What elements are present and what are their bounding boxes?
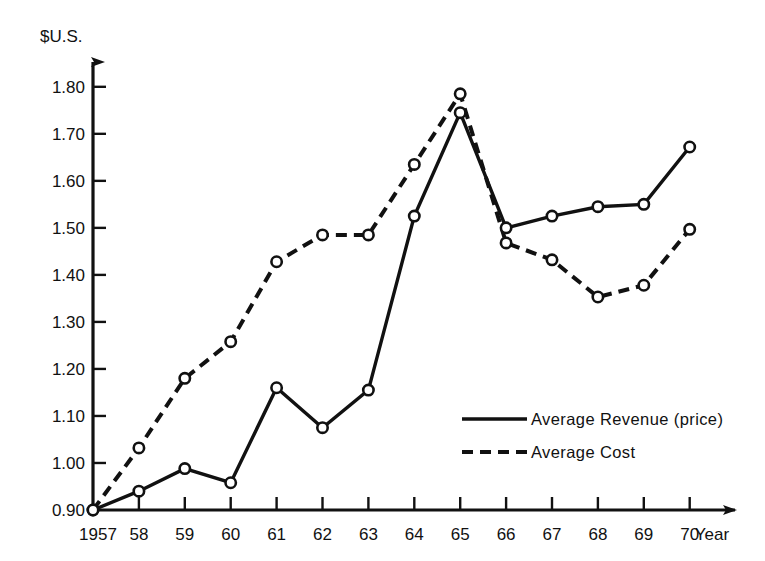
data-point-marker: [180, 463, 190, 473]
x-tick-label: 68: [588, 525, 607, 544]
x-tick-label: 60: [221, 525, 240, 544]
data-point-marker: [409, 159, 419, 169]
legend-label-average-revenue: Average Revenue (price): [531, 410, 723, 428]
y-tick-label: 1.60: [52, 172, 85, 191]
y-tick-label: 1.10: [52, 407, 85, 426]
data-point-marker: [455, 89, 465, 99]
y-axis-title: $U.S.: [40, 27, 83, 46]
data-point-marker: [88, 505, 98, 515]
data-point-marker: [547, 211, 557, 221]
data-point-marker: [363, 385, 373, 395]
x-tick-label: 67: [543, 525, 562, 544]
chart-container: $U.S. Year 0.901.001.101.201.301.401.501…: [0, 0, 765, 561]
x-tick-label: 64: [405, 525, 424, 544]
data-point-marker: [317, 423, 327, 433]
x-tick-label: 59: [175, 525, 194, 544]
data-point-marker: [593, 292, 603, 302]
data-point-marker: [134, 486, 144, 496]
data-point-marker: [134, 443, 144, 453]
data-point-marker: [409, 211, 419, 221]
y-tick-label: 1.50: [52, 219, 85, 238]
x-tick-label: 63: [359, 525, 378, 544]
data-point-marker: [501, 238, 511, 248]
x-tick-label: 69: [634, 525, 653, 544]
legend-label-average-cost: Average Cost: [531, 443, 635, 461]
y-tick-label: 0.90: [52, 501, 85, 520]
data-point-marker: [685, 224, 695, 234]
y-tick-label: 1.20: [52, 360, 85, 379]
data-point-marker: [685, 142, 695, 152]
data-point-marker: [501, 223, 511, 233]
data-point-marker: [639, 199, 649, 209]
data-point-marker: [226, 478, 236, 488]
x-tick-label: 61: [267, 525, 286, 544]
data-point-marker: [455, 107, 465, 117]
data-point-marker: [363, 230, 373, 240]
x-tick-label: 58: [129, 525, 148, 544]
chart-legend: Average Revenue (price) Average Cost: [462, 410, 723, 461]
data-point-marker: [271, 383, 281, 393]
line-chart: $U.S. Year 0.901.001.101.201.301.401.501…: [0, 0, 765, 561]
data-point-marker: [593, 202, 603, 212]
y-tick-label: 1.30: [52, 313, 85, 332]
x-tick-label: 65: [451, 525, 470, 544]
y-tick-label: 1.40: [52, 266, 85, 285]
x-tick-label: 66: [497, 525, 516, 544]
x-axis-ticks: 195758596061626364656667686970: [79, 497, 699, 544]
x-axis-title: Year: [695, 525, 730, 544]
y-tick-label: 1.70: [52, 125, 85, 144]
x-tick-label: 70: [680, 525, 699, 544]
data-point-marker: [180, 373, 190, 383]
y-tick-label: 1.80: [52, 78, 85, 97]
data-point-marker: [639, 280, 649, 290]
x-tick-label: 1957: [79, 525, 117, 544]
data-point-marker: [271, 257, 281, 267]
data-point-marker: [226, 336, 236, 346]
data-point-marker: [317, 230, 327, 240]
y-tick-label: 1.00: [52, 454, 85, 473]
x-tick-label: 62: [313, 525, 332, 544]
data-point-marker: [547, 255, 557, 265]
y-axis-ticks: 0.901.001.101.201.301.401.501.601.701.80: [52, 78, 106, 520]
